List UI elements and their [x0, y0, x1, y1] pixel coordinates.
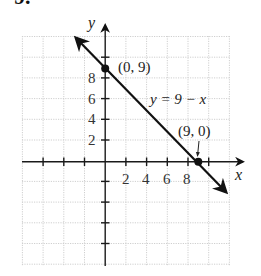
x-tick-label-6: 6: [163, 172, 171, 187]
y-tick-label-2: 2: [88, 133, 96, 148]
pointer-arrow: [198, 141, 200, 156]
line-y-equals-9-minus-x: [76, 38, 226, 192]
y-tick-label-6: 6: [88, 92, 96, 107]
y-tick-label-4: 4: [88, 112, 96, 127]
point-label-0-9: (0, 9): [118, 60, 151, 75]
x-tick-label-4: 4: [142, 172, 150, 187]
x-tick-label-8: 8: [183, 172, 191, 187]
x-tick-label-2: 2: [122, 172, 130, 187]
y-axis-label: y: [88, 15, 95, 30]
point-label-9-0: (9, 0): [178, 124, 211, 139]
y-tick-label-8: 8: [88, 71, 96, 86]
point-0-9: [101, 64, 109, 72]
graph-figure: 9.: [0, 0, 261, 276]
x-axis-label: x: [235, 167, 242, 182]
equation-label: y = 9 − x: [150, 92, 206, 107]
point-9-0: [194, 158, 202, 166]
coordinate-plane: [0, 0, 261, 276]
